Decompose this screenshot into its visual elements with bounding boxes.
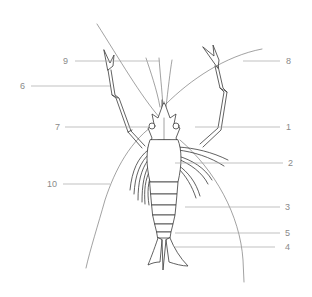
- antennules: [146, 58, 172, 112]
- label-10: 10: [47, 179, 57, 189]
- label-5: 5: [285, 228, 290, 238]
- label-1: 1: [286, 122, 291, 132]
- label-3: 3: [285, 202, 290, 212]
- shrimp-diagram: [0, 0, 312, 297]
- label-8: 8: [286, 56, 291, 66]
- left-eye: [149, 123, 155, 129]
- right-cheliped: [200, 45, 227, 147]
- tail-fan: [148, 238, 188, 270]
- right-eye: [173, 123, 179, 129]
- label-2: 2: [288, 158, 293, 168]
- right-walking-legs: [178, 147, 228, 198]
- carapace: [147, 140, 181, 182]
- label-6: 6: [20, 81, 25, 91]
- left-cheliped: [104, 50, 145, 148]
- label-9: 9: [63, 56, 68, 66]
- label-7: 7: [55, 122, 60, 132]
- abdomen: [150, 182, 178, 238]
- label-4: 4: [285, 242, 290, 252]
